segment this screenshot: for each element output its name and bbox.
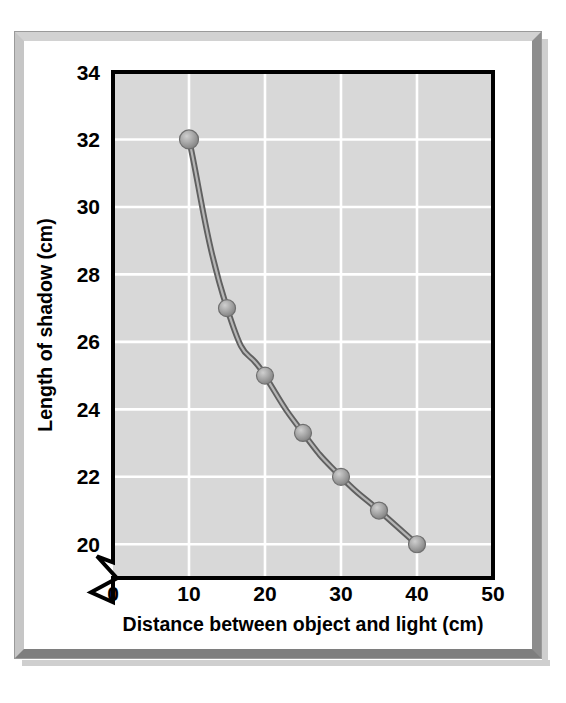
plot-background [113,72,493,578]
figure-root: 01020304050 2022242628303234 Distance be… [0,0,566,703]
data-point-marker [295,424,312,441]
x-axis-tick-label: 0 [107,582,119,605]
y-axis-title: Length of shadow (cm) [34,218,56,431]
y-axis-tick-label: 34 [77,61,101,84]
x-axis-tick-label: 30 [329,582,352,605]
data-point-marker [257,367,274,384]
y-axis-tick-label: 32 [77,128,100,151]
y-axis-tick-labels: 2022242628303234 [77,61,101,556]
data-point-marker [180,130,199,149]
x-axis-tick-label: 20 [253,582,276,605]
data-point-marker [219,300,236,317]
x-axis-title: Distance between object and light (cm) [123,613,484,635]
x-axis-tick-label: 50 [481,582,504,605]
data-point-marker [409,536,426,553]
y-axis-tick-label: 28 [77,263,101,286]
x-axis-tick-labels: 01020304050 [107,582,505,605]
data-point-marker [333,468,350,485]
y-axis-tick-label: 30 [77,195,100,218]
y-axis-tick-label: 24 [77,398,101,421]
y-axis-tick-label: 22 [77,465,100,488]
x-axis-tick-label: 10 [177,582,200,605]
line-chart: 01020304050 2022242628303234 Distance be… [0,0,566,703]
x-axis-tick-label: 40 [405,582,428,605]
chart-plot-area-wrapper: 01020304050 2022242628303234 Distance be… [0,0,566,703]
data-point-marker [371,502,388,519]
y-axis-tick-label: 20 [77,533,100,556]
y-axis-tick-label: 26 [77,330,100,353]
